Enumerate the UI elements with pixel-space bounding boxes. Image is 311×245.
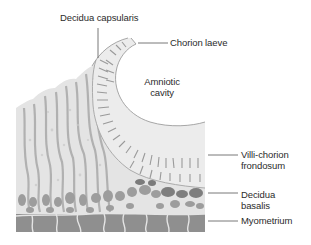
label-decidua-basalis-line2: basalis [241,200,311,211]
label-myometrium: Myometrium [241,215,292,226]
label-amniotic-cavity-line1: Amniotic [140,76,184,87]
label-villi-chorion-frondosum: Villi-chorion frondosum [241,149,311,171]
label-decidua-basalis-line1: Decidua [241,189,311,200]
label-decidua-basalis: Decidua basalis [241,189,311,211]
label-chorion-laeve: Chorion laeve [170,37,227,48]
label-decidua-capsularis: Decidua capsularis [60,12,138,23]
label-villi-chorion-line2: frondosum [241,160,311,171]
label-amniotic-cavity: Amniotic cavity [140,76,184,98]
label-amniotic-cavity-line2: cavity [140,87,184,98]
label-villi-chorion-line1: Villi-chorion [241,149,311,160]
